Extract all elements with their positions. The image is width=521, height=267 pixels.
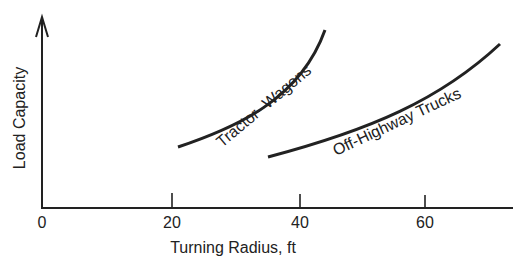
chart: 0 20 40 60 Turning Radius, ft Load Capac… [0, 0, 521, 267]
tractor-wagons-curve [178, 30, 325, 147]
x-tick-label-40: 40 [291, 214, 309, 231]
tractor-wagons-label: Tractor- Wagons [213, 61, 314, 150]
x-tick-label-0: 0 [38, 214, 47, 231]
off-highway-trucks-label: Off-Highway Trucks [330, 84, 463, 158]
x-axis-title: Turning Radius, ft [170, 239, 296, 256]
y-axis-title: Load Capacity [11, 67, 28, 169]
x-tick-label-60: 60 [416, 214, 434, 231]
x-tick-label-20: 20 [163, 214, 181, 231]
